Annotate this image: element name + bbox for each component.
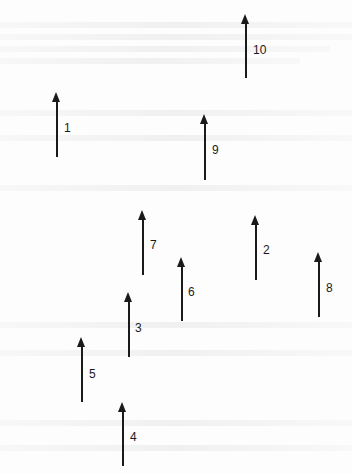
arrow-5 [76,337,88,402]
bleed-through-line [0,34,352,40]
arrow-label: 9 [212,144,219,156]
bleed-through-line [0,322,352,328]
arrow-shaft [318,258,320,317]
arrow-2 [250,215,262,280]
arrow-label: 8 [326,282,333,294]
arrow-shaft [245,20,247,78]
arrow-9 [199,114,211,180]
bleed-through-line [0,420,352,426]
arrow-6 [176,257,188,321]
arrow-8 [313,252,325,317]
arrow-7 [137,210,149,275]
bleed-through-line [0,445,352,451]
arrow-label: 7 [150,239,157,251]
arrow-shaft [181,263,183,321]
arrow-shaft [122,408,124,466]
arrow-shaft [142,216,144,275]
bleed-through-line [0,58,300,64]
bleed-through-line [0,185,352,191]
arrow-10 [240,14,252,78]
arrow-4 [117,402,129,466]
arrow-shaft [81,343,83,402]
arrow-1 [51,92,63,157]
bleed-through-line [0,350,352,356]
vector-diagram-canvas: 12345678910 [0,0,352,474]
arrow-shaft [56,98,58,157]
arrow-3 [123,292,135,357]
arrow-label: 1 [64,122,71,134]
arrow-label: 3 [135,322,142,334]
arrow-shaft [204,120,206,180]
arrow-label: 4 [130,431,137,443]
arrow-shaft [255,221,257,280]
bleed-through-line [0,46,330,52]
arrow-label: 2 [263,244,270,256]
arrow-label: 6 [188,286,195,298]
arrow-shaft [128,298,130,357]
bleed-through-line [0,22,352,28]
arrow-label: 10 [253,44,266,56]
arrow-label: 5 [89,368,96,380]
